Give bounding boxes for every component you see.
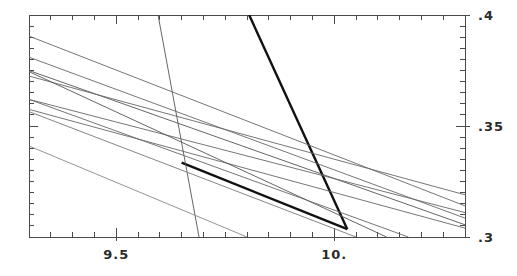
x-tick-label: 10. [321, 247, 347, 262]
series-line-shallow-line-a [29, 36, 465, 206]
y-tick-label: .3 [478, 230, 494, 245]
series-line-shallow-line-b [29, 57, 465, 218]
series-line-steep-descending-line [158, 15, 199, 237]
y-tick-label: .4 [478, 8, 494, 23]
y-tick-label: .35 [478, 119, 504, 134]
plot-figure: 9.510..4.35.3 [0, 0, 517, 276]
scientific-line-plot: 9.510..4.35.3 [0, 0, 517, 276]
series-line-shallow-line-f [29, 109, 465, 228]
x-tick-label: 9.5 [103, 247, 129, 262]
data-series-lines [29, 15, 465, 237]
series-line-mid-line-j [29, 112, 356, 237]
series-line-shallow-line-d [29, 76, 465, 195]
axes-frame [29, 15, 465, 237]
series-line-mid-line-i [29, 99, 408, 237]
axis-ticks [29, 15, 470, 241]
